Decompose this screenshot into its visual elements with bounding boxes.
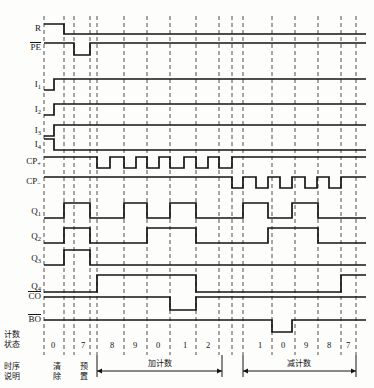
signal-label-text: Q xyxy=(31,232,38,241)
waveform-Q1 xyxy=(44,203,366,218)
signal-label-CO: CO xyxy=(0,292,41,301)
overline-bar xyxy=(28,291,41,292)
signal-label-text: CP xyxy=(26,157,37,166)
timing-note-row-label: 时序 说明 xyxy=(4,362,20,381)
phase-label-line1: 清 xyxy=(53,362,61,372)
signal-label-subscript: 3 xyxy=(38,257,41,264)
signal-label-text: CO xyxy=(28,292,41,301)
phase-label-line1: 预 xyxy=(80,362,88,372)
count-state-value: 9 xyxy=(299,340,313,350)
section-arrowhead-down-count xyxy=(351,368,356,373)
signal-label-I2: I2 xyxy=(0,105,41,116)
signal-label-I1: I1 xyxy=(0,80,41,91)
signal-label-text: CP xyxy=(26,177,37,186)
signal-label-subscript: 3 xyxy=(38,129,41,136)
signal-label-Q1: Q1 xyxy=(0,207,41,218)
signal-label-BO: BO xyxy=(0,315,41,324)
signal-label-Q3: Q3 xyxy=(0,254,41,265)
phase-label-line2: 置 xyxy=(80,372,88,382)
signal-label-subscript: − xyxy=(37,180,41,187)
phase-label-clear: 清除 xyxy=(53,362,61,381)
overline-bar xyxy=(30,42,41,43)
signal-label-subscript: 1 xyxy=(38,210,41,217)
signal-label-text: I xyxy=(35,140,38,149)
timing-note-label-line1: 时序 xyxy=(4,362,20,372)
count-state-label-line1: 计数 xyxy=(4,330,20,340)
signal-label-Q2: Q2 xyxy=(0,232,41,243)
signal-label-I4: I4 xyxy=(0,140,41,151)
signal-label-subscript: 1 xyxy=(38,83,41,90)
signal-label-text: PE xyxy=(30,43,41,52)
count-state-value: 2 xyxy=(201,340,215,350)
signal-label-text: R xyxy=(35,24,41,33)
waveform-canvas xyxy=(0,0,374,388)
signal-label-subscript: 4 xyxy=(38,143,41,150)
timing-note-label-line2: 说明 xyxy=(4,372,20,382)
count-state-value: 0 xyxy=(151,340,165,350)
section-arrowhead-down-count xyxy=(243,368,248,373)
phase-label-line2: 除 xyxy=(53,372,61,382)
count-state-value: 1 xyxy=(178,340,192,350)
waveform-Q2 xyxy=(44,228,366,243)
signal-label-text: Q xyxy=(31,254,38,263)
signal-label-text: I xyxy=(35,126,38,135)
signal-label-subscript: + xyxy=(37,160,41,167)
count-state-value: 8 xyxy=(105,340,119,350)
count-state-value: 0 xyxy=(276,340,290,350)
count-state-value: 9 xyxy=(128,340,142,350)
signal-label-PE: PE xyxy=(0,43,41,52)
count-state-value: 7 xyxy=(341,340,355,350)
count-state-row-label: 计数 状态 xyxy=(4,330,20,349)
signal-label-CPup: CP+ xyxy=(0,157,41,168)
section-name-down-count: 减计数 xyxy=(279,357,319,368)
signal-label-CPdn: CP− xyxy=(0,177,41,188)
timing-diagram-figure: RPEI1I2I3I4CP+CP−Q1Q2Q3Q4COBO 0789012109… xyxy=(0,0,374,388)
signal-label-subscript: 2 xyxy=(38,235,41,242)
count-state-label-line2: 状态 xyxy=(4,340,20,350)
count-state-value: 8 xyxy=(322,340,336,350)
count-state-value: 7 xyxy=(76,340,90,350)
waveform-CPdn xyxy=(44,177,366,188)
phase-label-preset: 预置 xyxy=(80,362,88,381)
section-arrowhead-up-count xyxy=(97,368,102,373)
signal-label-text: Q xyxy=(31,282,38,291)
signal-label-text: I xyxy=(35,105,38,114)
signal-label-text: Q xyxy=(31,207,38,216)
signal-label-subscript: 2 xyxy=(38,108,41,115)
signal-label-I3: I3 xyxy=(0,126,41,137)
section-arrowhead-up-count xyxy=(217,368,222,373)
count-state-value: 1 xyxy=(253,340,267,350)
signal-label-text: I xyxy=(35,80,38,89)
overline-bar xyxy=(28,314,41,315)
section-name-up-count: 加计数 xyxy=(140,357,180,368)
gridline-group xyxy=(44,16,356,355)
signal-label-R: R xyxy=(0,24,41,33)
count-state-value: 0 xyxy=(46,340,60,350)
signal-label-text: BO xyxy=(28,315,41,324)
